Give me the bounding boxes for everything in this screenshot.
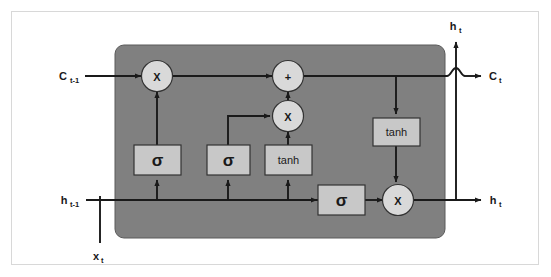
gate-candidate[interactable]: tanh xyxy=(265,145,312,175)
label-hidden-next-top-base: h xyxy=(450,20,457,32)
gate-forget[interactable]: σ xyxy=(134,145,181,175)
label-input-x-base: x xyxy=(93,250,100,262)
label-hidden-next-right: h t xyxy=(490,194,502,209)
gate-input-label: σ xyxy=(223,151,235,170)
gate-output-label: σ xyxy=(336,191,348,210)
figure-root: σ σ tanh σ tanh X + X xyxy=(0,0,551,277)
label-cell-state-next-base: C xyxy=(489,70,497,82)
gate-candidate-label: tanh xyxy=(278,154,299,166)
operator-output-multiply[interactable]: X xyxy=(383,185,414,216)
label-hidden-next-top: h t xyxy=(450,20,462,35)
gate-output[interactable]: σ xyxy=(318,185,365,215)
gate-cell-tanh-label: tanh xyxy=(386,126,407,138)
label-cell-state-next-sub: t xyxy=(499,76,502,85)
label-cell-state-next: C t xyxy=(489,70,502,85)
operator-output-multiply-glyph: X xyxy=(394,195,402,207)
operator-cell-add-glyph: + xyxy=(285,71,291,83)
operator-input-multiply-glyph: X xyxy=(284,111,292,123)
gate-input[interactable]: σ xyxy=(207,145,250,175)
gate-cell-tanh[interactable]: tanh xyxy=(373,118,420,146)
label-hidden-prev-sub: t-1 xyxy=(70,200,79,209)
label-hidden-prev: h t-1 xyxy=(61,194,80,209)
label-hidden-next-top-sub: t xyxy=(459,26,462,35)
lstm-cell-diagram: σ σ tanh σ tanh X + X xyxy=(0,0,551,277)
label-cell-state-prev-base: C xyxy=(59,70,67,82)
gate-forget-label: σ xyxy=(152,151,164,170)
label-hidden-prev-base: h xyxy=(61,194,68,206)
label-cell-state-prev-sub: t-1 xyxy=(70,76,79,85)
label-hidden-next-right-sub: t xyxy=(499,200,502,209)
label-cell-state-prev: C t-1 xyxy=(59,70,79,85)
operator-forget-multiply-glyph: X xyxy=(153,71,161,83)
label-hidden-next-right-base: h xyxy=(490,194,497,206)
operator-forget-multiply[interactable]: X xyxy=(142,61,173,92)
label-input-x-sub: t xyxy=(101,256,104,265)
label-input-x: x t xyxy=(93,250,104,265)
operator-cell-add[interactable]: + xyxy=(273,61,304,92)
operator-input-multiply[interactable]: X xyxy=(273,101,304,132)
